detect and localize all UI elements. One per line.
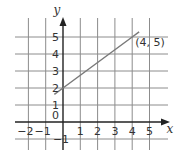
line-graph: −2−112345−1123450xy(4, 5) bbox=[0, 0, 177, 162]
x-tick-label: 3 bbox=[111, 125, 118, 138]
x-tick-label: 1 bbox=[77, 125, 84, 138]
y-tick-label: 4 bbox=[52, 48, 59, 61]
x-tick-label: −1 bbox=[35, 125, 51, 138]
y-tick-label: 3 bbox=[52, 65, 59, 78]
tick-labels: −2−112345−1123450xy(4, 5) bbox=[17, 3, 173, 146]
x-tick-label: 2 bbox=[94, 125, 101, 138]
data-series bbox=[54, 32, 139, 94]
y-axis-label: y bbox=[53, 3, 61, 17]
y-tick-label: 5 bbox=[52, 31, 59, 44]
origin-label: 0 bbox=[52, 109, 59, 122]
y-tick-label: −1 bbox=[53, 133, 69, 146]
y-axis-arrow-icon bbox=[60, 17, 67, 26]
point-annotation: (4, 5) bbox=[135, 36, 165, 49]
x-tick-label: −2 bbox=[17, 125, 33, 138]
x-axis-label: x bbox=[167, 122, 174, 136]
data-line bbox=[54, 32, 139, 94]
x-tick-label: 5 bbox=[146, 125, 153, 138]
y-tick-label: 2 bbox=[52, 82, 59, 95]
x-tick-label: 4 bbox=[129, 125, 136, 138]
